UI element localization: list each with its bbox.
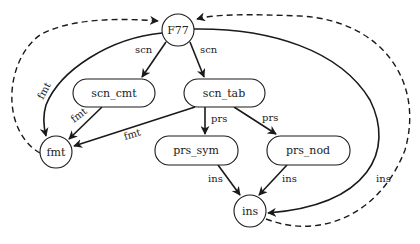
edge-prs-nod-to-ins: ins [259,165,297,195]
node-scn-tab: scn_tab [184,79,265,107]
edge-label: prs [262,112,278,123]
edge-label: scn [200,44,218,55]
node-ins: ins [234,195,266,227]
node-scn-cmt: scn_cmt [73,79,155,107]
node-label: prs_nod [286,144,330,157]
node-label: prs_sym [173,144,219,157]
edge-label: scn [135,44,153,55]
edge-label: prs [211,113,227,124]
node-f77: F77 [162,14,194,46]
edge-label: ins [282,173,297,184]
edge-f77-to-scn-cmt: scn [135,42,166,77]
edge-label: ins [208,173,223,184]
node-fmt: fmt [40,136,72,168]
node-label: scn_cmt [91,87,137,100]
edge-scn-cmt-to-fmt: fmt [68,105,102,139]
node-label: F77 [167,24,189,37]
node-label: scn_tab [203,87,245,100]
node-prs-nod: prs_nod [267,136,350,165]
node-label: fmt [47,146,67,159]
node-label: ins [242,205,259,218]
edge-prs-sym-to-ins: ins [208,165,240,195]
edge-scn-tab-to-prs-sym: prs [205,107,227,134]
node-prs-sym: prs_sym [155,136,238,165]
edge-label: ins [376,173,391,184]
edge-f77-to-scn-tab: scn [190,42,218,77]
edge-scn-tab-to-prs-nod: prs [234,107,278,134]
dependency-diagram: scn scn fmt fmt fmt prs prs ins ins ins … [0,0,420,244]
